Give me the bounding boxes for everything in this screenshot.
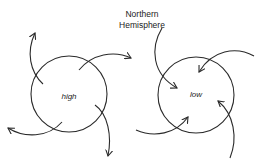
pressure-systems-diagram: Northern Hemisphere high low bbox=[0, 0, 262, 163]
outflow-arrow-icon bbox=[30, 33, 43, 84]
high-label: high bbox=[61, 92, 76, 101]
hemisphere-title: Northern Hemisphere bbox=[112, 9, 172, 31]
inflow-arrow-icon bbox=[199, 51, 254, 72]
title-line-1: Northern bbox=[112, 9, 172, 20]
outflow-arrow-icon bbox=[95, 105, 109, 156]
inflow-arrow-icon bbox=[136, 117, 188, 134]
title-line-2: Hemisphere bbox=[112, 20, 172, 31]
inflow-arrow-icon bbox=[155, 28, 177, 88]
outflow-arrow-icon bbox=[79, 54, 131, 70]
low-label: low bbox=[190, 90, 202, 99]
outflow-arrow-icon bbox=[8, 122, 62, 135]
